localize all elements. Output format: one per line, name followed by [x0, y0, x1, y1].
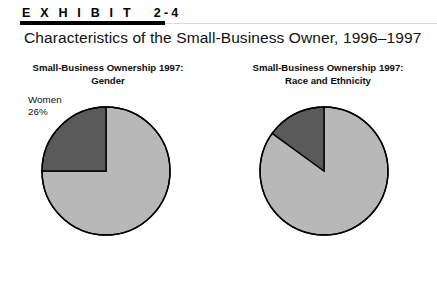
- header-rule: [0, 21, 437, 26]
- figure-title: Characteristics of the Small-Business Ow…: [24, 29, 421, 47]
- chart-title-race-line2: Race and Ethnicity: [228, 75, 428, 88]
- chart-title-gender-line2: Gender: [8, 75, 208, 88]
- exhibit-label: E X H I B I T 2-4: [22, 6, 181, 20]
- slice-label-women-pct: 26%: [28, 106, 62, 118]
- chart-panel-gender: Small-Business Ownership 1997: Gender Wo…: [8, 62, 208, 277]
- pie-holder-race: [228, 92, 428, 237]
- pie-chart-gender: [40, 105, 172, 237]
- exhibit-figure: E X H I B I T 2-4 Characteristics of the…: [0, 0, 437, 281]
- chart-title-gender-line1: Small-Business Ownership 1997:: [33, 62, 184, 73]
- chart-title-gender: Small-Business Ownership 1997: Gender: [8, 62, 208, 87]
- slice-label-women: Women 26%: [28, 94, 62, 118]
- pie-chart-race: [258, 105, 390, 237]
- chart-panel-race: Small-Business Ownership 1997: Race and …: [228, 62, 428, 277]
- chart-title-race: Small-Business Ownership 1997: Race and …: [228, 62, 428, 87]
- slice-label-women-name: Women: [28, 94, 62, 105]
- header-rule-thick: [20, 21, 165, 25]
- chart-title-race-line1: Small-Business Ownership 1997:: [253, 62, 404, 73]
